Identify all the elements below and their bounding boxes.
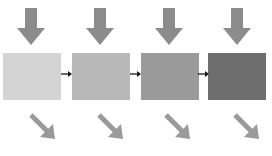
input-arrow-1-icon [16,6,46,46]
stage-box-4 [208,53,266,100]
stage-box-2 [72,53,130,100]
output-arrow-1-icon [26,110,62,146]
connector-arrow-2-icon [130,70,142,78]
output-arrow-3-icon [161,110,197,146]
output-arrow-4-icon [230,110,266,146]
stage-box-3 [141,53,199,100]
input-arrow-3-icon [154,6,184,46]
connector-arrow-3-icon [198,70,210,78]
output-arrow-2-icon [94,110,130,146]
stage-box-1 [3,53,61,100]
input-arrow-2-icon [85,6,115,46]
flow-diagram [0,0,272,156]
connector-arrow-1-icon [61,70,73,78]
input-arrow-4-icon [222,6,252,46]
